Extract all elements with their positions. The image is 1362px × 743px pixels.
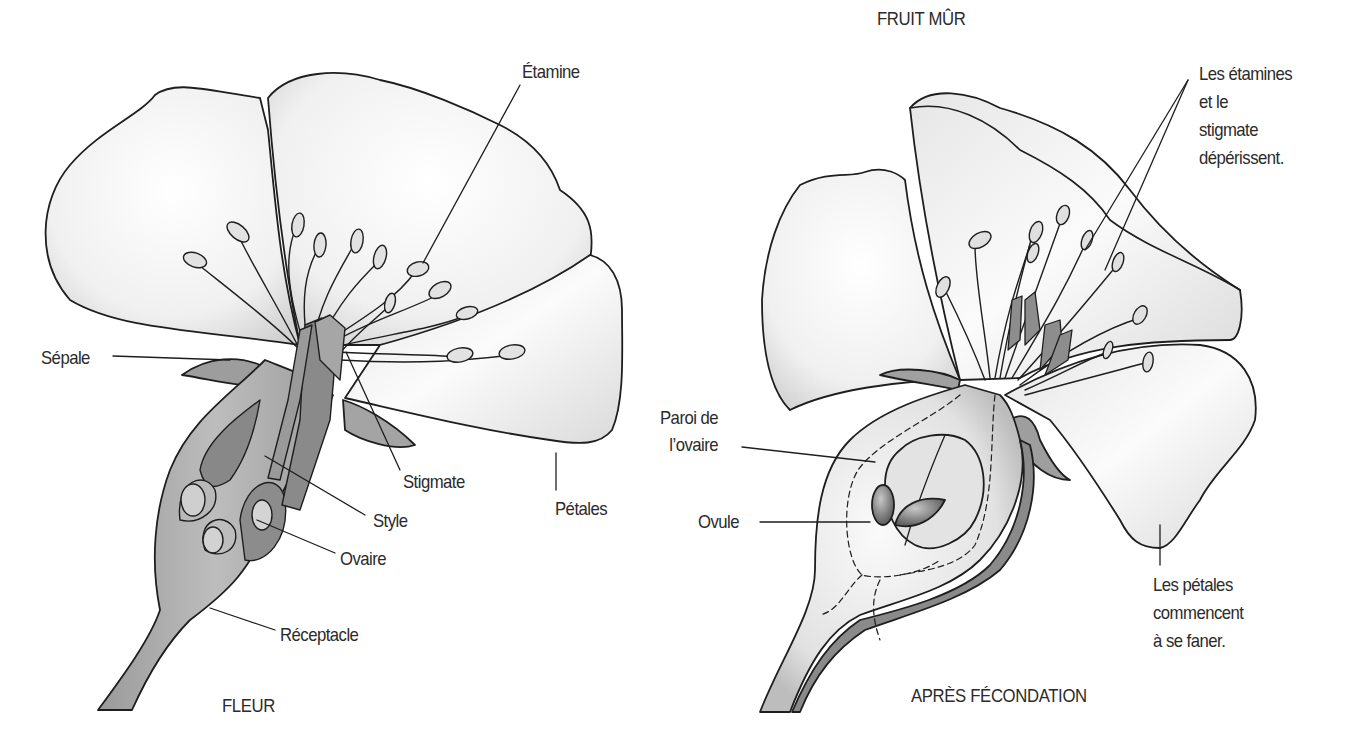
label-etamines-deperissent: Les étamines et le stigmate dépérissent. (1199, 60, 1292, 172)
label-ovaire: Ovaire (340, 547, 386, 570)
fruit-body (760, 385, 1023, 712)
label-style: Style (373, 509, 408, 532)
label-petales-fanent: Les pétales commencent à se faner. (1153, 571, 1243, 655)
label-stigmate: Stigmate (403, 470, 465, 493)
label-sepale: Sépale (41, 346, 90, 369)
caption-fleur: FLEUR (222, 694, 275, 717)
leader-sepale (113, 356, 230, 360)
leader-receptacle (210, 608, 275, 630)
ovule-1 (872, 485, 894, 525)
label-petales: Pétales (555, 497, 607, 520)
flower-panel (46, 73, 623, 710)
label-ovule: Ovule (698, 510, 739, 533)
label-receptacle: Réceptacle (280, 623, 358, 646)
caption-apres-fecondation: APRÈS FÉCONDATION (911, 684, 1087, 707)
label-etamine: Étamine (522, 60, 580, 83)
label-paroi-ovaire: Paroi de l’ovaire (660, 404, 718, 458)
petal-left (46, 87, 300, 345)
petal-top-wilting (910, 93, 1242, 380)
caption-fruit-mur: FRUIT MÛR (877, 7, 965, 30)
